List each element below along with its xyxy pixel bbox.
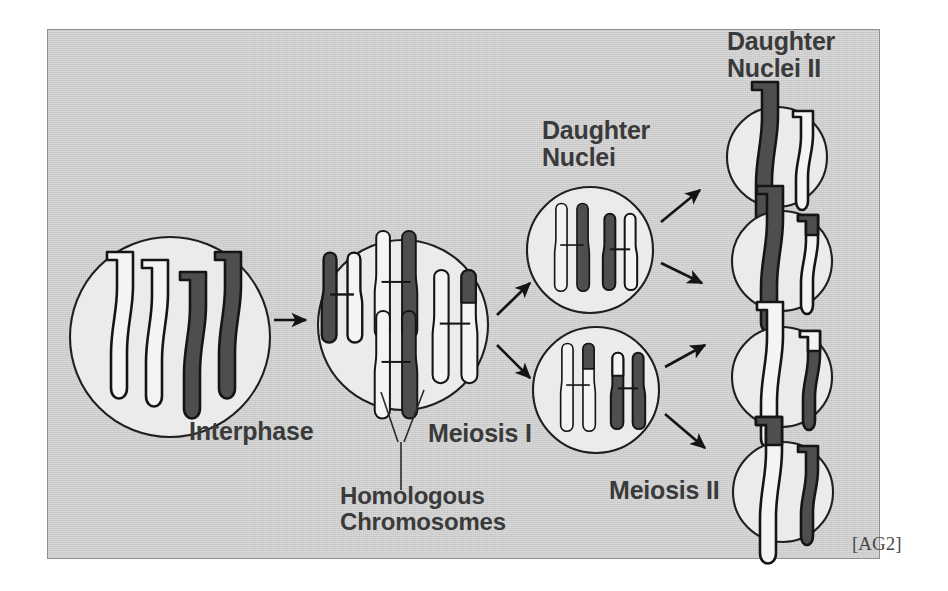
label-homologous-chromosomes: Homologous Chromosomes	[340, 483, 506, 535]
label-daughter-nuclei: Daughter Nuclei	[542, 117, 650, 171]
label-meiosis-ii: Meiosis II	[609, 477, 720, 504]
label-meiosis-i: Meiosis I	[428, 420, 532, 447]
label-daughter-nuclei-ii: Daughter Nuclei II	[727, 28, 835, 82]
credit-tag: [AG2]	[852, 533, 902, 555]
diagram-panel	[47, 29, 880, 559]
diagram-stage: .cell { fill:#ebebeb; stroke:#1f1f1f; st…	[0, 0, 948, 591]
label-interphase: Interphase	[189, 418, 313, 445]
